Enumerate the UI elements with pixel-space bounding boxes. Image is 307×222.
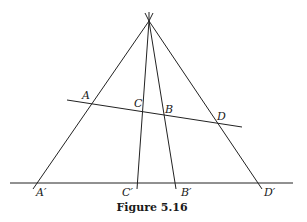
label-a-prime: A′ — [35, 186, 47, 199]
projective-figure: A C B D A′ C′ B′ D′ Figure 5.16 — [0, 0, 307, 222]
label-a: A — [81, 89, 90, 102]
label-c: C — [134, 97, 143, 110]
label-b-prime: B′ — [180, 186, 192, 199]
label-c-prime: C′ — [122, 186, 133, 199]
label-b: B — [164, 103, 173, 116]
label-d-prime: D′ — [263, 186, 276, 199]
label-d: D — [216, 110, 226, 123]
transversal-line — [67, 100, 242, 127]
ray-a — [33, 21, 149, 189]
apex-mark — [145, 12, 153, 21]
figure-caption: Figure 5.16 — [116, 201, 187, 214]
